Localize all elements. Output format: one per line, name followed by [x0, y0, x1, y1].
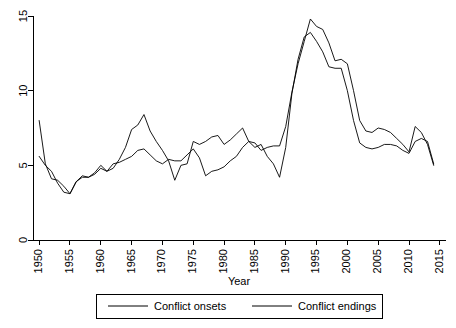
- x-tick-label: 1990: [279, 249, 291, 273]
- series-lines: [39, 19, 434, 194]
- series-line-conflict-onsets: [39, 32, 434, 193]
- legend-label-conflict-onsets: Conflict onsets: [154, 300, 227, 312]
- y-tick-label: 0: [17, 237, 29, 243]
- x-tick-label: 1980: [217, 249, 229, 273]
- legend: Conflict onsets Conflict endings: [96, 294, 382, 318]
- y-tick-label: 15: [17, 10, 29, 22]
- x-tick-label: 2015: [433, 249, 445, 273]
- x-axis-ticks: 1950195519601965197019751980198519901995…: [32, 240, 445, 273]
- x-tick-label: 1995: [309, 249, 321, 273]
- legend-label-conflict-endings: Conflict endings: [298, 300, 377, 312]
- x-tick-label: 1965: [125, 249, 137, 273]
- x-tick-label: 1985: [248, 249, 260, 273]
- chart-container: 051015 195019551960196519701975198019851…: [0, 0, 456, 328]
- x-tick-label: 2000: [340, 249, 352, 273]
- x-tick-label: 1955: [63, 249, 75, 273]
- series-line-conflict-endings: [39, 19, 434, 194]
- x-tick-label: 1950: [32, 249, 44, 273]
- x-axis-title: Year: [228, 275, 251, 287]
- x-tick-label: 1970: [155, 249, 167, 273]
- y-tick-label: 10: [17, 85, 29, 97]
- x-tick-label: 2005: [371, 249, 383, 273]
- y-axis-ticks: 051015: [17, 10, 33, 243]
- line-chart: 051015 195019551960196519701975198019851…: [0, 0, 456, 328]
- x-tick-label: 1960: [94, 249, 106, 273]
- y-tick-label: 5: [17, 162, 29, 168]
- x-tick-label: 2010: [402, 249, 414, 273]
- x-tick-label: 1975: [186, 249, 198, 273]
